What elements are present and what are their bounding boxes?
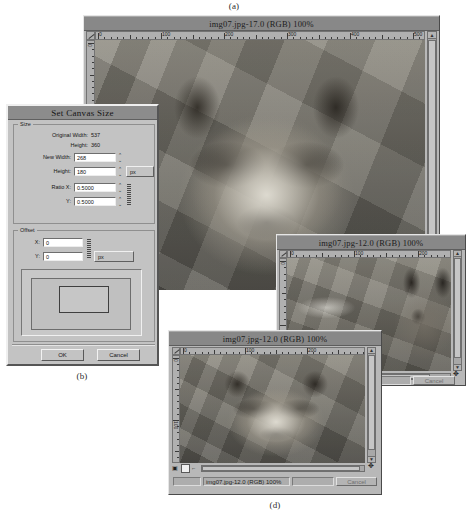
ruler-label: 0 (99, 32, 102, 37)
ruler-tick (284, 280, 287, 281)
stepper-down-icon[interactable]: ⌄ (118, 158, 124, 162)
ruler-tick (136, 37, 137, 40)
cancel-button-c[interactable]: Cancel (413, 376, 455, 385)
stepper-down-icon[interactable]: ⌄ (118, 172, 124, 176)
ruler-label: 300 (288, 32, 296, 37)
ruler-tick (237, 37, 238, 40)
ruler-tick (388, 37, 389, 40)
new-height-label: Height: (54, 168, 71, 175)
nav-preview-box-d[interactable] (181, 464, 190, 473)
ratio-chain-link-icon[interactable] (127, 184, 131, 206)
ruler-tick (295, 352, 296, 355)
ruler-tick (338, 350, 339, 354)
ruler-tick (332, 352, 333, 355)
image-canvas-d[interactable] (180, 355, 365, 463)
original-height-row: Height: 360 (18, 142, 113, 149)
new-width-label-wrap: New Width: (18, 154, 71, 161)
ruler-label: 100 (173, 421, 178, 429)
ruler-label: 200 (308, 348, 316, 353)
ratio-y-stepper[interactable]: ⌃ ⌄ (118, 197, 124, 206)
ruler-label: 0 (87, 44, 92, 47)
ruler-tick (400, 37, 401, 40)
resize-move-icon-d[interactable]: ✥ (368, 463, 374, 470)
scrollbar-thumb-vertical-c[interactable] (454, 258, 461, 358)
ok-button[interactable]: OK (41, 349, 84, 361)
ruler-tick (239, 352, 240, 355)
new-height-input[interactable]: 180 (74, 167, 116, 176)
ruler-horizontal-c[interactable]: 0100200 (287, 250, 451, 258)
scrollbar-vertical-d[interactable]: ▲ ▼ (367, 347, 376, 463)
nav-handle-icon-d[interactable]: ⌐ (192, 465, 195, 472)
offset-unit-select[interactable]: px (94, 251, 134, 262)
ruler-tick (288, 352, 289, 355)
new-width-stepper[interactable]: ⌃ ⌄ (118, 153, 124, 162)
quickmask-toggle-icon-d[interactable]: ▣ (172, 465, 179, 472)
ruler-tick (130, 35, 131, 39)
original-height-value: 360 (91, 142, 113, 149)
window-titlebar-d[interactable]: img07.jpg-12.0 (RGB) 100% (169, 331, 381, 346)
ruler-origin-box-main[interactable] (86, 31, 95, 40)
cancel-button-dialog[interactable]: Cancel (97, 349, 140, 361)
ruler-tick (341, 255, 342, 258)
stepper-down-icon[interactable]: ⌄ (118, 188, 124, 192)
ruler-tick (117, 37, 118, 40)
scroll-up-arrow-icon[interactable]: ▲ (427, 31, 437, 39)
scroll-up-arrow-icon-c[interactable]: ▲ (453, 250, 462, 257)
scrollbar-thumb-horizontal-d[interactable] (202, 466, 360, 471)
window-titlebar-main[interactable]: img07.jpg-17.0 (RGB) 100% (84, 16, 439, 31)
scrollbar-vertical-c[interactable]: ▲ ▼ (453, 250, 462, 371)
size-unit-select[interactable]: px (126, 166, 154, 177)
dialog-titlebar[interactable]: Set Canvas Size (8, 106, 157, 120)
offset-y-input[interactable]: 0 (43, 252, 83, 261)
new-height-stepper[interactable]: ⌃ ⌄ (118, 167, 124, 176)
ratio-y-input[interactable]: 0.5000 (74, 197, 116, 206)
stepper-down-icon[interactable]: ⌄ (118, 202, 124, 206)
ruler-tick (312, 37, 313, 40)
ruler-tick (284, 287, 287, 288)
ruler-tick (303, 255, 304, 258)
ruler-label: 100 (162, 32, 170, 37)
ruler-origin-box-d[interactable] (172, 347, 180, 355)
canvas-preview-area[interactable] (21, 269, 142, 336)
ruler-tick (350, 352, 351, 355)
scrollbar-horizontal-d[interactable] (201, 465, 365, 472)
ratio-x-stepper[interactable]: ⌃ ⌄ (118, 183, 124, 192)
ruler-label: 500 (414, 32, 422, 37)
ratio-x-input[interactable]: 0.5000 (74, 183, 116, 192)
ruler-tick (331, 37, 332, 40)
window-titlebar-c[interactable]: img07.jpg-12.0 (RGB) 100% (277, 235, 465, 250)
canvas-preview-new-bounds[interactable] (59, 286, 109, 313)
ruler-tick (177, 414, 180, 415)
new-width-input[interactable]: 268 (74, 153, 116, 162)
ruler-tick (319, 352, 320, 355)
ruler-tick (392, 255, 393, 258)
dialog-separator (12, 344, 155, 346)
ruler-horizontal-d[interactable]: 0100200 (180, 347, 365, 355)
ruler-label: 200 (419, 251, 427, 256)
scrollbar-thumb-vertical-d[interactable] (368, 355, 375, 450)
set-canvas-size-dialog[interactable]: Set Canvas Size Size Original Width: 537… (6, 104, 159, 366)
ruler-tick (177, 408, 180, 409)
ruler-tick (301, 352, 302, 355)
ruler-tick (177, 383, 180, 384)
ruler-tick (175, 451, 179, 452)
ruler-tick (373, 255, 374, 258)
ruler-tick (369, 37, 370, 40)
scroll-up-arrow-icon-d[interactable]: ▲ (367, 347, 376, 354)
offset-y-label-wrap: Y: (18, 253, 40, 260)
ruler-tick (186, 37, 187, 40)
image-window-d[interactable]: img07.jpg-12.0 (RGB) 100% 0100200 0100 ▲… (168, 330, 382, 495)
cancel-button-d[interactable]: Cancel (336, 477, 377, 486)
ruler-origin-box-c[interactable] (279, 250, 287, 258)
ruler-vertical-d[interactable]: 0100 (172, 355, 180, 463)
ruler-horizontal-main[interactable]: 0100200300400500 (95, 31, 425, 40)
offset-x-label: X: (35, 239, 40, 246)
ruler-tick (148, 37, 149, 40)
ruler-tick (211, 37, 212, 40)
ruler-tick (394, 37, 395, 40)
ruler-tick (296, 255, 297, 258)
offset-x-input[interactable]: 0 (43, 238, 83, 247)
ruler-tick (243, 37, 244, 40)
ruler-tick (111, 37, 112, 40)
offset-chain-link-icon[interactable] (87, 239, 91, 259)
